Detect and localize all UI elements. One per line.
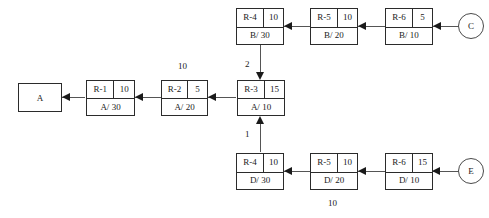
node-r5-b-id: R-5 bbox=[311, 9, 338, 27]
arrowhead-r3a-to-r2a bbox=[208, 93, 216, 101]
arrowhead-r4b-to-r3a bbox=[256, 72, 264, 80]
terminal-c-label: C bbox=[468, 21, 474, 31]
node-r3-a[interactable]: R-3 15 A/ 10 bbox=[237, 80, 285, 116]
node-r6-b-qty: 5 bbox=[413, 9, 432, 27]
node-r4-d-header: R-4 10 bbox=[237, 154, 283, 173]
arrowhead-e-to-r6d bbox=[432, 167, 440, 175]
node-r5-d-detail: D/ 20 bbox=[311, 173, 357, 190]
node-r3-a-qty: 15 bbox=[265, 81, 284, 98]
node-r4-b[interactable]: R-4 10 B/ 30 bbox=[236, 8, 284, 45]
node-r4-d-detail: D/ 30 bbox=[237, 173, 283, 190]
node-r4-b-qty: 10 bbox=[264, 9, 283, 27]
node-r4-b-id: R-4 bbox=[237, 9, 264, 27]
node-r6-d[interactable]: R-6 15 D/ 10 bbox=[385, 153, 433, 190]
node-r6-d-qty: 15 bbox=[413, 154, 432, 172]
node-r5-d-header: R-5 10 bbox=[311, 154, 357, 173]
node-r6-b[interactable]: R-6 5 B/ 10 bbox=[385, 8, 433, 45]
arrowhead-r5b-to-r4b bbox=[284, 22, 292, 30]
node-r6-b-detail: B/ 10 bbox=[386, 28, 432, 45]
node-r6-d-detail: D/ 10 bbox=[386, 173, 432, 190]
terminal-a-label: A bbox=[37, 93, 44, 103]
arrowhead-c-to-r6b bbox=[433, 22, 441, 30]
edge-label-bottom-center: 10 bbox=[328, 199, 337, 208]
node-r5-d-id: R-5 bbox=[311, 154, 338, 172]
arrowhead-r6d-to-r5d bbox=[358, 167, 366, 175]
node-r5-b-detail: B/ 20 bbox=[311, 28, 357, 45]
diagram-canvas: R-6 5 B/ 10 R-5 10 B/ 20 R-4 10 B/ 30 C … bbox=[0, 0, 489, 218]
node-r4-d-id: R-4 bbox=[237, 154, 264, 172]
node-r6-b-id: R-6 bbox=[386, 9, 413, 27]
node-r5-d[interactable]: R-5 10 D/ 20 bbox=[310, 153, 358, 190]
node-r4-d[interactable]: R-4 10 D/ 30 bbox=[236, 153, 284, 190]
node-r5-d-qty: 10 bbox=[338, 154, 357, 172]
node-r3-a-header: R-3 15 bbox=[238, 81, 284, 99]
arrowhead-r5d-to-r4d bbox=[284, 167, 292, 175]
node-r5-b[interactable]: R-5 10 B/ 20 bbox=[310, 8, 358, 45]
node-r3-a-detail: A/ 10 bbox=[238, 99, 284, 115]
node-r3-a-id: R-3 bbox=[238, 81, 265, 98]
node-r6-d-id: R-6 bbox=[386, 154, 413, 172]
node-r2-a-id: R-2 bbox=[162, 81, 188, 98]
terminal-c[interactable]: C bbox=[458, 13, 484, 39]
arrowhead-r6b-to-r5b bbox=[358, 22, 366, 30]
node-r1-a-detail: A/ 30 bbox=[87, 99, 134, 115]
node-r5-b-qty: 10 bbox=[338, 9, 357, 27]
edge-label-branch-from-b: 2 bbox=[245, 60, 250, 69]
arrowhead-r1a-to-a bbox=[62, 93, 70, 101]
node-r1-a-header: R-1 10 bbox=[87, 81, 134, 99]
node-r1-a-id: R-1 bbox=[87, 81, 114, 98]
node-r2-a[interactable]: R-2 5 A/ 20 bbox=[161, 80, 208, 116]
node-r4-b-header: R-4 10 bbox=[237, 9, 283, 28]
link-r4d-to-r3a bbox=[260, 124, 261, 152]
node-r5-b-header: R-5 10 bbox=[311, 9, 357, 28]
node-r2-a-qty: 5 bbox=[188, 81, 207, 98]
node-r2-a-header: R-2 5 bbox=[162, 81, 207, 99]
node-r1-a-qty: 10 bbox=[114, 81, 134, 98]
node-r4-d-qty: 10 bbox=[264, 154, 283, 172]
terminal-e-label: E bbox=[468, 166, 474, 176]
edge-label-top-middle: 10 bbox=[178, 62, 187, 71]
arrowhead-r2a-to-r1a bbox=[135, 93, 143, 101]
node-r4-b-detail: B/ 30 bbox=[237, 28, 283, 45]
terminal-a[interactable]: A bbox=[18, 83, 62, 112]
node-r2-a-detail: A/ 20 bbox=[162, 99, 207, 115]
node-r6-d-header: R-6 15 bbox=[386, 154, 432, 173]
arrowhead-r4d-to-r3a bbox=[256, 116, 264, 124]
node-r6-b-header: R-6 5 bbox=[386, 9, 432, 28]
edge-label-branch-from-d: 1 bbox=[245, 130, 250, 139]
node-r1-a[interactable]: R-1 10 A/ 30 bbox=[86, 80, 135, 116]
terminal-e[interactable]: E bbox=[458, 158, 484, 184]
